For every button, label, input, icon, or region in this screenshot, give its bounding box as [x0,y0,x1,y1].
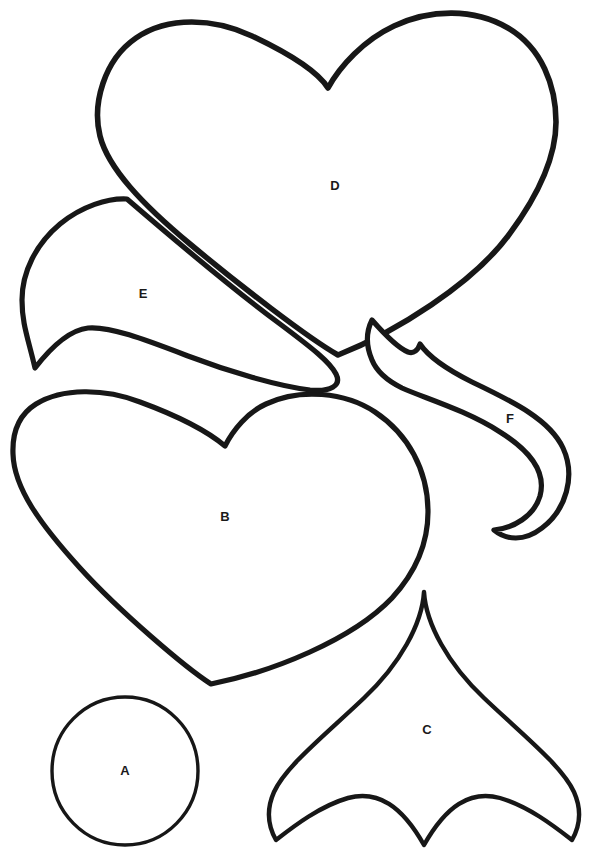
shape-label-f: F [506,412,514,425]
pattern-sheet: ABCDEF [0,0,594,854]
shape-label-d: D [330,179,339,192]
shape-label-b: B [220,510,229,523]
shape-outline-b [13,392,428,684]
shape-label-a: A [120,764,129,777]
shape-outlines-svg [0,0,594,854]
shape-label-e: E [139,287,148,300]
shape-label-c: C [422,723,431,736]
